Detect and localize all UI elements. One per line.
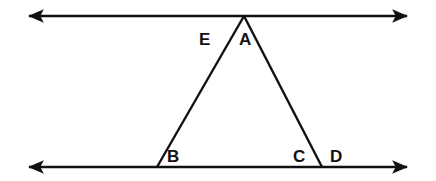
vertex-label-D: D [330,148,342,165]
geometry-canvas [0,0,436,181]
vertex-label-B: B [167,148,179,165]
vertex-label-C: C [293,148,305,165]
triangle-right-leg [244,16,322,167]
vertex-label-E: E [199,31,210,48]
geometry-figure: E A B C D [0,0,436,181]
vertex-label-A: A [239,31,251,48]
